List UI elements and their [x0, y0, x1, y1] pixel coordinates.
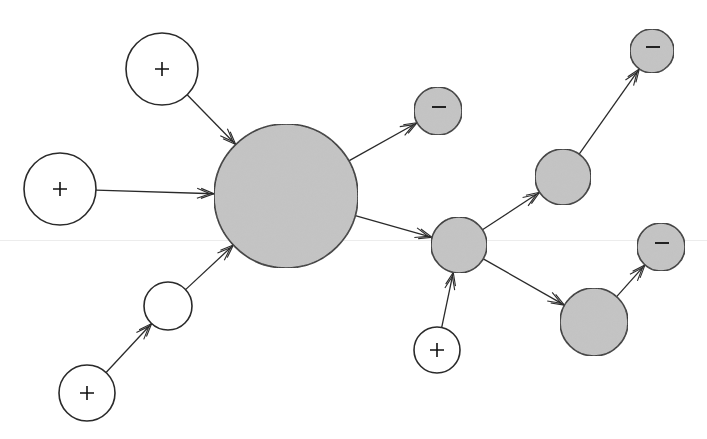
edge-mid-gray-to-upper-right-gray — [482, 192, 539, 229]
node-circle — [214, 124, 358, 268]
edge-lower-right-gray-to-neg-right — [617, 265, 645, 297]
node-circle — [560, 288, 628, 356]
arrow-line — [483, 259, 564, 305]
node-neg-top-right — [630, 29, 674, 73]
node-neg-right — [637, 223, 685, 271]
node-pos-bottom — [414, 327, 460, 373]
edge-pos-bottom-to-mid-gray — [442, 272, 456, 327]
edge-hub-to-mid-gray — [355, 216, 432, 239]
node-hub — [214, 124, 358, 268]
node-neg-near-hub — [414, 87, 462, 135]
edge-pos-left-to-hub — [96, 188, 214, 198]
edge-hub-to-neg-near-hub — [349, 123, 417, 161]
nodes — [24, 29, 685, 421]
arrow-line — [106, 324, 152, 373]
arrow-line — [96, 190, 214, 194]
edge-pos-top-left-to-hub — [187, 95, 236, 145]
edge-pos-bottom-left-to-internal-white — [106, 324, 152, 373]
node-circle — [431, 217, 487, 273]
node-internal-white — [144, 282, 192, 330]
arrow-line — [617, 265, 645, 297]
node-pos-top-left — [126, 33, 198, 105]
arrow-line — [187, 95, 236, 145]
node-circle — [144, 282, 192, 330]
node-circle — [535, 149, 591, 205]
arrow-line — [355, 216, 432, 238]
node-circle — [630, 29, 674, 73]
arrow-line — [482, 192, 539, 229]
node-pos-left — [24, 153, 96, 225]
node-circle — [414, 87, 462, 135]
edge-internal-white-to-hub — [186, 245, 234, 290]
network-diagram — [0, 0, 707, 439]
arrow-line — [579, 69, 639, 154]
arrow-line — [349, 123, 417, 161]
edge-mid-gray-to-lower-right-gray — [483, 259, 564, 305]
node-upper-right-gray — [535, 149, 591, 205]
node-mid-gray — [431, 217, 487, 273]
arrow-line — [186, 245, 234, 290]
node-pos-bottom-left — [59, 365, 115, 421]
node-circle — [637, 223, 685, 271]
arrowhead-icon — [625, 69, 639, 86]
edge-upper-right-gray-to-neg-top-right — [579, 69, 639, 154]
node-lower-right-gray — [560, 288, 628, 356]
